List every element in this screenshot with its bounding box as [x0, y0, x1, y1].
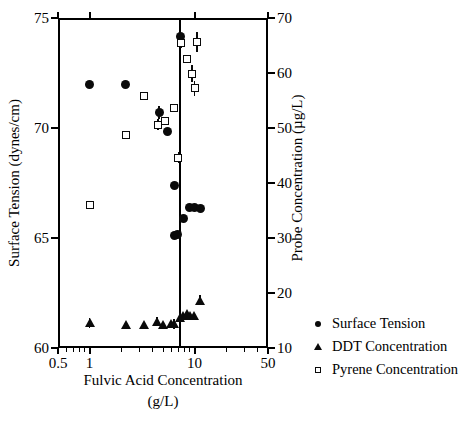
data-point-surface-tension — [121, 80, 130, 89]
x-axis-tick-label: 0.5 — [49, 356, 68, 371]
x-axis-tick-top — [57, 12, 59, 18]
x-axis-tick — [194, 348, 196, 354]
plot-area: 60657075102030405060700.511050 — [58, 18, 268, 348]
legend-item-label: Pyrene Concentration — [332, 361, 458, 378]
y-axis-right-tick-label: 20 — [277, 286, 292, 301]
x-axis-minor-tick — [79, 348, 80, 352]
y-axis-right-tick-label: 70 — [277, 11, 292, 26]
x-axis-title-line1: Fulvic Acid Concentration — [83, 372, 242, 388]
y-axis-left-title: Surface Tension (dynes/cm) — [6, 99, 23, 267]
x-axis-minor-tick — [73, 348, 74, 352]
y-axis-left-tick-label: 75 — [34, 11, 49, 26]
scatter-chart-figure: Surface Tension (dynes/cm) Probe Concent… — [0, 0, 469, 429]
y-axis-right-tick-label: 50 — [277, 121, 292, 136]
x-axis-minor-tick — [152, 348, 153, 352]
data-point-ddt — [139, 320, 149, 329]
y-axis-left-tick — [51, 127, 58, 129]
y-axis-right-tick — [268, 17, 275, 19]
y-axis-right-tick — [268, 237, 275, 239]
legend-item-label: DDT Concentration — [332, 338, 447, 355]
y-axis-left-tick-label: 60 — [34, 341, 49, 356]
data-point-ddt — [121, 320, 131, 329]
legend-item-label: Surface Tension — [332, 315, 425, 332]
x-axis-tick-top — [267, 12, 269, 18]
y-axis-left-tick — [51, 237, 58, 239]
legend-swatch — [310, 343, 326, 350]
x-axis-tick-label: 1 — [86, 356, 94, 371]
legend-swatch — [310, 321, 326, 327]
y-axis-right-tick — [268, 292, 275, 294]
x-axis-minor-tick — [121, 348, 122, 352]
data-point-pyrene — [161, 117, 169, 125]
x-axis-minor-tick — [257, 348, 258, 352]
x-axis-minor-tick — [163, 348, 164, 352]
data-point-surface-tension — [163, 127, 172, 136]
x-axis-minor-tick — [171, 348, 172, 352]
data-point-pyrene — [193, 38, 201, 46]
y-axis-right-tick — [268, 347, 275, 349]
y-axis-right-tick-label: 10 — [277, 341, 292, 356]
x-axis-tick-label: 50 — [261, 356, 276, 371]
y-axis-right-tick — [268, 72, 275, 74]
y-axis-right-tick-label: 60 — [277, 66, 292, 81]
legend-item: DDT Concentration — [310, 335, 458, 358]
triangle-marker-icon — [314, 343, 322, 350]
data-point-ddt — [85, 318, 95, 327]
x-axis-minor-tick — [184, 348, 185, 352]
data-point-pyrene — [191, 84, 199, 92]
data-point-pyrene — [183, 55, 191, 63]
data-point-ddt — [195, 296, 205, 305]
x-axis-tick-top — [89, 12, 91, 18]
data-point-pyrene — [140, 92, 148, 100]
x-axis-tick-top — [194, 12, 196, 18]
y-axis-right-tick — [268, 182, 275, 184]
legend-swatch — [310, 367, 326, 373]
x-axis-minor-tick — [189, 348, 190, 352]
x-axis-minor-tick — [66, 348, 67, 352]
y-axis-right-tick-label: 40 — [277, 176, 292, 191]
data-point-pyrene — [122, 131, 130, 139]
x-axis-tick — [267, 348, 269, 354]
x-axis-minor-tick — [244, 348, 245, 352]
x-axis-tick-label: 10 — [187, 356, 202, 371]
data-point-pyrene — [170, 104, 178, 112]
data-point-surface-tension — [85, 80, 94, 89]
x-axis-minor-tick — [178, 348, 179, 352]
x-axis-title: Fulvic Acid Concentration (g/L) — [83, 370, 242, 412]
chart-legend: Surface TensionDDT ConcentrationPyrene C… — [310, 312, 458, 381]
data-point-pyrene — [174, 154, 182, 162]
reference-line — [179, 18, 181, 348]
circle-marker-icon — [315, 321, 321, 327]
x-axis-tick — [89, 348, 91, 354]
square-marker-icon — [315, 367, 321, 373]
data-point-pyrene — [177, 39, 185, 47]
x-axis-title-line2: (g/L) — [83, 391, 242, 412]
y-axis-left-tick-label: 65 — [34, 231, 49, 246]
x-axis-tick — [57, 348, 59, 354]
x-axis-minor-tick — [226, 348, 227, 352]
data-point-surface-tension — [170, 181, 179, 190]
data-point-surface-tension — [179, 214, 188, 223]
legend-item: Surface Tension — [310, 312, 458, 335]
data-point-surface-tension — [155, 108, 164, 117]
legend-item: Pyrene Concentration — [310, 358, 458, 381]
data-point-pyrene — [188, 70, 196, 78]
data-point-pyrene — [86, 201, 94, 209]
x-axis-minor-tick — [139, 348, 140, 352]
data-point-surface-tension — [196, 204, 205, 213]
data-point-ddt — [189, 311, 199, 320]
y-axis-left-tick-label: 70 — [34, 121, 49, 136]
x-axis-minor-tick — [84, 348, 85, 352]
y-axis-right-tick-label: 30 — [277, 231, 292, 246]
y-axis-right-tick — [268, 127, 275, 129]
